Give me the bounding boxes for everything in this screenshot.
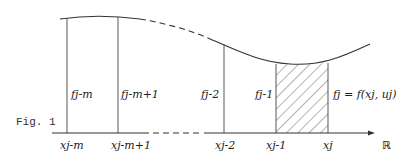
f-label-j: fj = f(xj, uj) bbox=[333, 89, 396, 100]
figure-caption: Fig. 1 bbox=[16, 116, 56, 128]
curve-solid-left bbox=[60, 16, 140, 19]
hatched-area bbox=[276, 63, 328, 133]
f-label-j-m+1: fj-m+1 bbox=[121, 89, 159, 100]
f-label-j-2: fj-2 bbox=[201, 89, 219, 100]
axis-arrow-icon bbox=[368, 131, 375, 136]
curve-solid-right bbox=[208, 38, 370, 64]
f-label-j-m: fj-m bbox=[71, 89, 93, 100]
real-axis-label: ℝ bbox=[382, 139, 391, 152]
x-label-j-2: xj-2 bbox=[215, 140, 235, 151]
x-label-j: xj bbox=[323, 140, 333, 151]
f-label-j-1: fj-1 bbox=[255, 89, 273, 100]
x-label-j-m: xj-m bbox=[60, 140, 84, 151]
curve-dashed bbox=[140, 19, 208, 38]
x-label-j-1: xj-1 bbox=[266, 140, 286, 151]
x-label-j-m+1: xj-m+1 bbox=[111, 140, 151, 151]
